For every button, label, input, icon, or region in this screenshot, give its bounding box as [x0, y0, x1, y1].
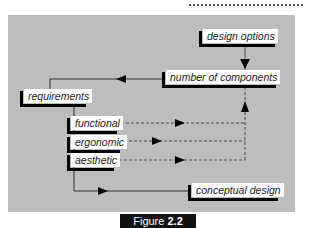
node-conceptual-design: conceptual design — [188, 183, 280, 198]
node-label: ergonomic — [71, 135, 127, 149]
node-label: aesthetic — [71, 153, 120, 167]
node-aesthetic: aesthetic — [67, 153, 119, 168]
node-label: functional — [71, 116, 123, 130]
arrow-functional — [175, 119, 185, 127]
node-requirements: requirements — [20, 89, 90, 104]
node-ergonomic: ergonomic — [67, 135, 124, 150]
edge-design-options-to-components — [240, 45, 250, 70]
figure-prefix: Figure — [133, 215, 167, 227]
arrow-to-components — [241, 101, 249, 112]
node-label: conceptual design — [192, 183, 284, 197]
arrow-aesthetic — [175, 156, 185, 164]
figure-caption: Figure 2.2 — [120, 214, 196, 228]
node-label: requirements — [24, 89, 92, 103]
arrow-ergonomic — [152, 137, 162, 145]
edge-components-to-requirements — [50, 75, 163, 90]
node-number-of-components: number of components — [162, 70, 278, 85]
node-label: design options — [203, 29, 278, 43]
node-design-options: design options — [201, 29, 277, 44]
node-functional: functional — [67, 116, 122, 131]
node-label: number of components — [166, 70, 280, 84]
figure-number: 2.2 — [167, 215, 182, 227]
